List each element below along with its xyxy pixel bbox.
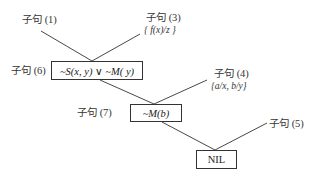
clause7-label: 子句 (7) bbox=[77, 107, 112, 119]
clause4-label: 子句 (4) bbox=[214, 68, 249, 80]
edge-clause1-clause6 bbox=[41, 31, 92, 61]
nil-result-box: NIL bbox=[196, 150, 237, 169]
clause6-formula-box: ~S(x, y) ∨ ~M( y) bbox=[51, 61, 143, 80]
clause5-label: 子句 (5) bbox=[269, 118, 304, 130]
edge-clause6-clause7 bbox=[100, 80, 154, 104]
edge-clause7-nil bbox=[162, 122, 215, 150]
clause3-label: 子句 (3) bbox=[146, 12, 181, 24]
clause4-substitution: {a/x, b/y} bbox=[211, 81, 247, 92]
edge-clause4-clause7 bbox=[154, 80, 207, 104]
clause1-label: 子句 (1) bbox=[22, 14, 57, 26]
clause3-substitution: { f(x)/z } bbox=[144, 25, 176, 36]
clause6-label: 子句 (6) bbox=[11, 65, 46, 77]
edge-clause3-clause6 bbox=[92, 34, 140, 61]
clause7-formula-box: ~M(b) bbox=[130, 104, 182, 122]
edge-clause5-nil bbox=[215, 123, 267, 150]
